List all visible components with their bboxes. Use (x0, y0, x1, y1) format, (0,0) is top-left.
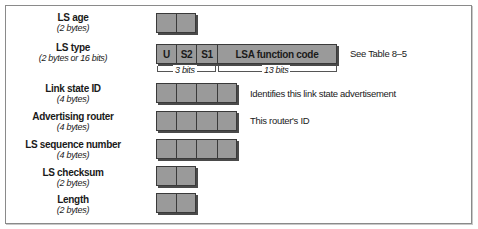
field-name: Advertising router (0, 111, 148, 122)
field-label-ls-age: LS age (2 bytes) (0, 12, 148, 34)
byte-cell (156, 13, 176, 33)
field-label-link-state-id: Link state ID (4 bytes) (0, 83, 148, 105)
bit-cell-s1: S1 (196, 44, 217, 64)
field-label-length: Length (2 bytes) (0, 194, 148, 216)
ls-type-boxes: U S2 S1 LSA function code (156, 44, 337, 64)
bracket-label-3-bits: 3 bits (173, 65, 197, 75)
byte-cell (176, 193, 196, 213)
advertising-router-boxes (156, 111, 237, 131)
bit-cell-u: U (156, 44, 176, 64)
field-size: (2 bytes or 16 bits) (0, 53, 148, 64)
ls-sequence-number-boxes (156, 139, 237, 159)
byte-cell (196, 139, 217, 159)
byte-cell (176, 166, 196, 186)
byte-cell (156, 83, 176, 103)
bit-cell-s2: S2 (176, 44, 196, 64)
note-ls-type: See Table 8–5 (350, 48, 407, 59)
field-label-advertising-router: Advertising router (4 bytes) (0, 111, 148, 133)
field-name: LS type (0, 42, 148, 53)
field-name: Length (0, 194, 148, 205)
byte-cell (176, 139, 196, 159)
field-name: Link state ID (0, 83, 148, 94)
ls-checksum-boxes (156, 166, 196, 186)
field-size: (4 bytes) (0, 150, 148, 161)
byte-cell (217, 111, 237, 131)
field-size: (2 bytes) (0, 178, 148, 189)
byte-cell (156, 139, 176, 159)
byte-cell (217, 83, 237, 103)
byte-cell (196, 111, 217, 131)
note-advertising-router: This router's ID (250, 115, 309, 126)
field-size: (4 bytes) (0, 94, 148, 105)
field-name: LS checksum (0, 167, 148, 178)
field-size: (4 bytes) (0, 122, 148, 133)
byte-cell (196, 83, 217, 103)
length-boxes (156, 193, 196, 213)
field-size: (2 bytes) (0, 23, 148, 34)
field-label-ls-type: LS type (2 bytes or 16 bits) (0, 42, 148, 64)
field-label-ls-checksum: LS checksum (2 bytes) (0, 167, 148, 189)
field-name: LS age (0, 12, 148, 23)
field-label-ls-sequence-number: LS sequence number (4 bytes) (0, 139, 148, 161)
byte-cell (217, 139, 237, 159)
field-name: LS sequence number (0, 139, 148, 150)
byte-cell (156, 193, 176, 213)
link-state-id-boxes (156, 83, 237, 103)
ls-age-boxes (156, 13, 196, 33)
note-link-state-id: Identifies this link state advertisement (250, 88, 396, 99)
byte-cell (156, 166, 176, 186)
byte-cell (176, 83, 196, 103)
byte-cell (176, 13, 196, 33)
field-size: (2 bytes) (0, 205, 148, 216)
bracket-label-13-bits: 13 bits (262, 65, 290, 75)
byte-cell (156, 111, 176, 131)
lsa-function-code-cell: LSA function code (217, 44, 337, 64)
byte-cell (176, 111, 196, 131)
